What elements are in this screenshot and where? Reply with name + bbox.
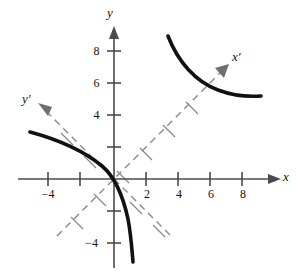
x-prime-arrowhead xyxy=(215,64,229,78)
x-tick-label-4: 4 xyxy=(172,188,186,200)
y-tick-label--4: −4 xyxy=(80,237,103,249)
y-tick-label-4: 4 xyxy=(90,109,103,121)
y-axis xyxy=(107,26,121,268)
y-axis-label: y xyxy=(107,6,113,19)
graph-canvas xyxy=(0,0,296,273)
y-tick-label-8: 8 xyxy=(90,45,103,57)
hyperbola-branch-upper-right xyxy=(168,36,261,96)
x-tick-label-6: 6 xyxy=(204,188,218,200)
x-tick-label-8: 8 xyxy=(236,188,250,200)
x-axis xyxy=(18,172,281,186)
x-axis-arrowhead xyxy=(268,174,281,184)
math-figure: y x x′ y′ −4 2 4 6 8 8 6 4 −4 xyxy=(0,0,296,273)
x-prime-axis-label: x′ xyxy=(232,50,241,63)
x-axis-label: x xyxy=(283,170,289,183)
x-prime-ticks xyxy=(71,102,198,229)
y-axis-arrowhead xyxy=(109,26,119,39)
x-prime-axis xyxy=(57,64,229,236)
x-tick-label-2: 2 xyxy=(140,188,154,200)
x-tick-label--4: −4 xyxy=(36,188,60,200)
y-tick-label-6: 6 xyxy=(90,77,103,89)
y-prime-axis-label: y′ xyxy=(22,92,31,105)
